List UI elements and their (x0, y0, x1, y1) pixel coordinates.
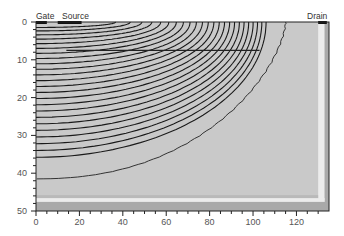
y-tick-label: 50 (17, 206, 27, 216)
substrate-region (36, 202, 329, 211)
source-label: Source (62, 11, 89, 21)
x-tick-label: 120 (289, 217, 304, 227)
drain-label: Drain (307, 11, 328, 21)
contour-chart: 01020304050020406080100120 Gate Source D… (0, 0, 344, 236)
right-edge-substrate (325, 22, 329, 211)
light-band (36, 198, 325, 202)
right-edge-band (318, 22, 325, 200)
gate-label: Gate (36, 11, 55, 21)
y-tick-label: 40 (17, 168, 27, 178)
x-tick-label: 80 (205, 217, 215, 227)
y-tick-label: 10 (17, 55, 27, 65)
y-tick-label: 20 (17, 93, 27, 103)
x-tick-label: 60 (161, 217, 171, 227)
y-tick-label: 0 (22, 17, 27, 27)
x-tick-label: 20 (74, 217, 84, 227)
x-tick-label: 40 (118, 217, 128, 227)
plot-area (36, 21, 329, 211)
interface-line (36, 195, 318, 198)
x-tick-label: 100 (246, 217, 261, 227)
y-tick-label: 30 (17, 130, 27, 140)
x-tick-label: 0 (33, 217, 38, 227)
